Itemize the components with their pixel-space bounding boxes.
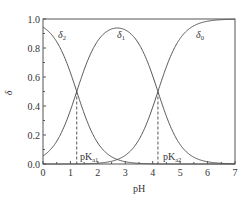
curve-label-delta1: δ1 (117, 29, 125, 41)
curve-label-delta2: δ2 (58, 29, 66, 41)
y-axis-label: δ (3, 90, 14, 95)
pka1-label: pKa1 (80, 151, 98, 163)
x-axis-label: pH (133, 183, 145, 194)
curves-group (43, 19, 235, 164)
y-tick-label: 0.4 (28, 101, 41, 112)
x-tick-label: 0 (41, 167, 46, 178)
x-tick-label: 3 (123, 167, 128, 178)
y-tick-label: 1.0 (28, 14, 41, 25)
x-tick-label: 4 (150, 167, 155, 178)
y-tick-label: 0.0 (28, 159, 41, 170)
plot-frame (43, 19, 235, 164)
x-axis-ticks: 01234567 (41, 161, 238, 178)
curve-delta0 (43, 19, 235, 164)
curve-label-delta0: δ0 (196, 29, 204, 41)
y-tick-label: 0.2 (28, 130, 41, 141)
pka2-label: pKa2 (163, 151, 181, 163)
y-tick-label: 0.6 (28, 72, 41, 83)
curve-delta2 (43, 27, 235, 164)
x-tick-label: 1 (68, 167, 73, 178)
y-tick-label: 0.8 (28, 43, 41, 54)
x-tick-label: 5 (178, 167, 183, 178)
curve-delta1 (43, 28, 235, 164)
x-tick-label: 6 (205, 167, 210, 178)
x-tick-label: 7 (233, 167, 238, 178)
species-distribution-chart: 01234567 0.00.20.40.60.81.0 pH δ δ2 δ1 δ… (0, 0, 248, 202)
x-tick-label: 2 (95, 167, 100, 178)
